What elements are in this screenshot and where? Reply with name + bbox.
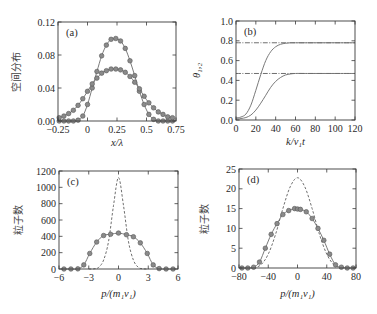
marker-a-1-13 [118, 68, 123, 73]
ytick-label-b-2: 0.4 [221, 75, 234, 86]
ytick-label-a-0: 0.00 [38, 116, 56, 127]
marker-d-1-7 [281, 212, 286, 217]
marker-d-1-13 [310, 216, 315, 221]
series-d-final [240, 206, 356, 270]
marker-c-1-8 [116, 231, 121, 236]
marker-a-1-4 [76, 103, 81, 108]
ytick-label-b-3: 0.6 [221, 55, 234, 66]
xtick-label-b-4: 80 [310, 123, 320, 134]
marker-c-1-10 [131, 234, 136, 239]
marker-a-1-17 [137, 87, 142, 92]
series-c-final [62, 231, 176, 272]
figure: −0.2500.250.50.750.000.040.080.12(a)x/λ空… [0, 0, 377, 314]
marker-a-1-2 [66, 111, 71, 116]
ytick-label-a-3: 0.12 [38, 17, 56, 28]
marker-d-1-5 [269, 232, 274, 237]
xtick-label-d-2: 0 [295, 271, 300, 282]
panel-a: −0.2500.250.50.750.000.040.080.12(a)x/λ空… [10, 17, 185, 149]
xlabel-c: p/(m₁v₁) [100, 288, 136, 300]
panel-label-c: (c) [67, 176, 79, 188]
xtick-label-a-2: 0.25 [108, 124, 126, 135]
marker-a-1-10 [104, 68, 109, 73]
panel-label-b: (b) [244, 26, 257, 38]
xtick-label-d-4: 80 [351, 271, 361, 282]
marker-a-1-7 [90, 82, 95, 87]
xtick-label-d-1: −40 [260, 271, 276, 282]
series-b-θ1 [236, 43, 355, 118]
line-a-1 [59, 69, 172, 118]
marker-a-0-11 [109, 37, 114, 42]
marker-d-1-6 [275, 221, 280, 226]
marker-c-1-12 [145, 251, 150, 256]
ytick-label-d-0: 0 [231, 263, 236, 274]
marker-d-1-14 [316, 226, 321, 231]
marker-a-0-5 [80, 114, 85, 119]
marker-d-1-12 [304, 209, 309, 214]
marker-a-0-14 [123, 46, 128, 51]
panel-b: 0204060801001200.00.20.40.60.81.0(b)k/v₁… [191, 16, 363, 148]
marker-c-1-4 [87, 251, 92, 256]
ytick-label-d-5: 25 [226, 164, 236, 175]
marker-a-1-16 [132, 80, 137, 85]
marker-d-1-17 [333, 263, 338, 268]
marker-a-1-20 [151, 106, 156, 111]
marker-d-1-2 [251, 265, 256, 270]
marker-d-1-16 [327, 252, 332, 257]
marker-a-0-15 [128, 58, 133, 63]
marker-a-1-3 [71, 108, 76, 113]
marker-c-1-5 [94, 240, 99, 245]
ytick-label-c-3: 600 [41, 215, 56, 226]
panel-c: −6−3036020040060080010001200(c)p/(m₁v₁)粒… [12, 166, 181, 301]
marker-a-0-10 [104, 43, 109, 48]
marker-a-1-5 [80, 96, 85, 101]
ytick-label-b-1: 0.2 [221, 95, 234, 106]
xtick-label-c-1: −3 [83, 272, 94, 283]
marker-a-1-6 [85, 89, 90, 94]
xlabel-a: x/λ [110, 137, 124, 148]
marker-a-0-13 [118, 39, 123, 44]
marker-d-1-4 [263, 246, 268, 251]
xlabel-d: p/(m₁v₁) [279, 288, 315, 300]
series-c-initial [89, 178, 149, 269]
marker-a-1-22 [161, 112, 166, 117]
xtick-label-d-3: 40 [322, 271, 332, 282]
ylabel-b: θ₁,₂ [191, 63, 202, 78]
marker-d-1-3 [257, 260, 262, 265]
marker-c-1-13 [151, 263, 156, 268]
marker-c-1-3 [81, 263, 86, 268]
marker-c-1-9 [124, 232, 129, 237]
xtick-label-b-0: 0 [234, 123, 239, 134]
marker-a-0-9 [99, 54, 104, 59]
marker-d-1-11 [298, 207, 303, 212]
panel-d: −80−40040800510152025(d)p/(m₁v₁)粒子数 [198, 164, 361, 301]
ytick-label-c-5: 1000 [36, 182, 56, 193]
marker-a-1-19 [147, 101, 152, 106]
marker-a-1-1 [62, 114, 67, 119]
xtick-label-b-3: 60 [291, 123, 301, 134]
xtick-label-c-3: 3 [146, 272, 151, 283]
ytick-label-d-4: 20 [226, 183, 236, 194]
xtick-label-a-4: 0.75 [167, 124, 185, 135]
panel-label-d: (d) [247, 174, 260, 186]
marker-a-0-18 [142, 102, 147, 107]
ytick-label-c-4: 800 [41, 198, 56, 209]
line-b-0 [236, 43, 355, 118]
marker-a-1-14 [123, 70, 128, 75]
ytick-label-d-2: 10 [226, 223, 236, 234]
marker-d-1-18 [339, 265, 344, 270]
series-a-wide [57, 67, 175, 120]
marker-a-1-8 [95, 76, 100, 81]
ytick-label-c-1: 200 [41, 247, 56, 258]
ylabel-a: 空间分布 [10, 52, 22, 92]
marker-a-0-4 [76, 118, 81, 123]
marker-a-0-16 [132, 73, 137, 78]
marker-d-1-8 [286, 208, 291, 213]
xtick-label-c-4: 6 [176, 272, 181, 283]
marker-a-0-19 [147, 112, 152, 117]
marker-c-1-11 [138, 241, 143, 246]
line-c-1 [64, 233, 173, 269]
xtick-label-a-3: 0.5 [140, 124, 153, 135]
marker-c-1-7 [108, 232, 113, 237]
xtick-label-b-1: 20 [251, 123, 261, 134]
marker-a-1-11 [109, 67, 114, 72]
